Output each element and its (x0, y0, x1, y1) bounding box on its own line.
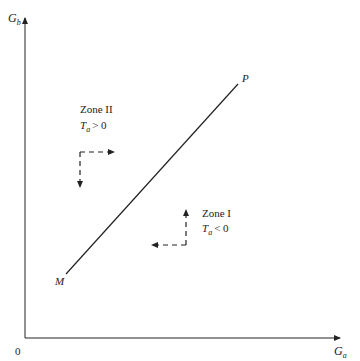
zone-ii-condition: Ta> 0 (80, 119, 107, 134)
zone-i: Zone I Ta< 0 (152, 207, 231, 245)
point-m-label: M (54, 275, 65, 287)
zone-i-name: Zone I (202, 207, 231, 219)
zone-i-condition: Ta< 0 (202, 222, 229, 237)
point-p-label: P (241, 72, 249, 84)
y-axis-label: Gb (8, 11, 21, 27)
x-axis-label: Ga (334, 344, 347, 360)
diagram-canvas: Gb Ga 0 M P Zone II Ta> 0 Zone I Ta< 0 (0, 0, 360, 361)
origin-label: 0 (15, 345, 21, 357)
zone-ii: Zone II Ta> 0 (80, 103, 114, 187)
zone-ii-name: Zone II (80, 103, 113, 115)
